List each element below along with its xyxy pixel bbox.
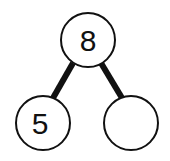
whole-circle: 8 [61,13,115,67]
whole-value: 8 [80,24,97,57]
part-circle-right[interactable] [104,96,158,150]
part-left-value: 5 [32,107,49,140]
number-bond-diagram: 8 5 [0,0,170,161]
connector-left [53,63,73,98]
connector-right [101,63,122,98]
part-circle-left: 5 [16,96,70,150]
